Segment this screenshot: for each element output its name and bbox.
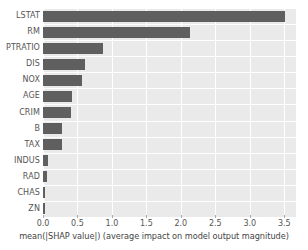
bar-ptratio <box>43 43 103 54</box>
x-tick-mark <box>250 215 251 218</box>
gridline-horizontal <box>43 24 296 25</box>
x-tick-mark <box>215 215 216 218</box>
gridline-horizontal <box>43 185 296 186</box>
y-tick-label-tax: TAX <box>0 140 40 149</box>
x-axis-title: mean(|SHAP value|) (average impact on mo… <box>0 231 308 242</box>
y-tick-label-rad: RAD <box>0 172 40 181</box>
bar-b <box>43 123 62 134</box>
x-tick-mark <box>43 215 44 218</box>
gridline-horizontal <box>43 121 296 122</box>
gridline-horizontal <box>43 169 296 170</box>
y-tick-label-ptratio: PTRATIO <box>0 43 40 52</box>
gridline-horizontal <box>43 201 296 202</box>
x-tick-mark <box>77 215 78 218</box>
gridline-horizontal <box>43 104 296 105</box>
x-tick-label-2.5: 2.5 <box>202 219 228 229</box>
y-tick-label-dis: DIS <box>0 59 40 68</box>
gridline-horizontal <box>43 56 296 57</box>
y-tick-label-indus: INDUS <box>0 156 40 165</box>
x-axis-tick-labels: 0.00.51.01.52.02.53.03.5 <box>43 219 296 231</box>
x-tick-mark <box>284 215 285 218</box>
bar-rad <box>43 171 47 182</box>
bar-indus <box>43 155 48 166</box>
bar-rm <box>43 27 190 38</box>
x-tick-label-3.5: 3.5 <box>271 219 297 229</box>
bar-nox <box>43 75 82 86</box>
y-tick-label-age: AGE <box>0 91 40 100</box>
bar-dis <box>43 59 85 70</box>
y-tick-label-chas: CHAS <box>0 188 40 197</box>
y-tick-label-crim: CRIM <box>0 108 40 117</box>
bar-zn <box>43 203 45 214</box>
bar-lstat <box>43 11 285 22</box>
gridline-horizontal <box>43 153 296 154</box>
x-tick-mark <box>181 215 182 218</box>
x-tick-label-1.5: 1.5 <box>133 219 159 229</box>
gridline-horizontal <box>43 40 296 41</box>
x-tick-label-1.0: 1.0 <box>99 219 125 229</box>
x-tick-mark <box>112 215 113 218</box>
bar-crim <box>43 107 71 118</box>
y-tick-label-nox: NOX <box>0 75 40 84</box>
y-tick-label-b: B <box>0 124 40 133</box>
gridline-horizontal <box>43 8 296 9</box>
bar-age <box>43 91 72 102</box>
y-tick-label-lstat: LSTAT <box>0 11 40 20</box>
plot-area <box>43 8 296 217</box>
x-tick-mark <box>146 215 147 218</box>
x-tick-label-0.5: 0.5 <box>64 219 90 229</box>
y-tick-label-zn: ZN <box>0 204 40 213</box>
gridline-horizontal <box>43 137 296 138</box>
y-axis-tick-labels: LSTATRMPTRATIODISNOXAGECRIMBTAXINDUSRADC… <box>0 8 40 217</box>
bar-tax <box>43 139 62 150</box>
gridline-horizontal <box>43 88 296 89</box>
x-tick-label-3.0: 3.0 <box>237 219 263 229</box>
gridline-horizontal <box>43 72 296 73</box>
x-tick-label-0.0: 0.0 <box>30 219 56 229</box>
bar-chas <box>43 187 45 198</box>
x-tick-label-2.0: 2.0 <box>168 219 194 229</box>
y-tick-label-rm: RM <box>0 27 40 36</box>
shap-summary-bar-chart: LSTATRMPTRATIODISNOXAGECRIMBTAXINDUSRADC… <box>0 0 308 250</box>
